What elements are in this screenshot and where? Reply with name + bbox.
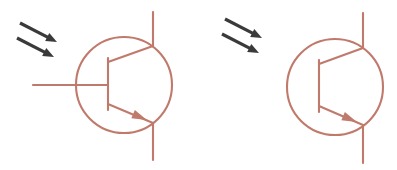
schematic-canvas (0, 0, 397, 170)
phototransistor-schematic (0, 0, 397, 170)
